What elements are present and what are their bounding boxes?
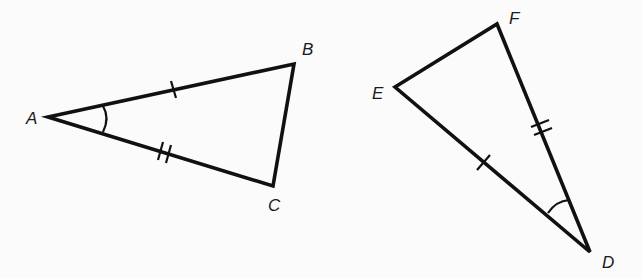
triangle-def: E F D [372, 9, 614, 272]
angle-d-arc [548, 200, 569, 213]
vertex-label-f: F [509, 9, 521, 28]
vertex-label-e: E [372, 84, 384, 103]
triangle-def-outline [395, 24, 590, 252]
vertex-label-a: A [25, 109, 37, 128]
congruent-triangles-diagram: A B C E F D [0, 0, 642, 278]
angle-a-arc [103, 106, 107, 132]
vertex-label-c: C [268, 196, 281, 215]
triangle-abc: A B C [25, 40, 313, 215]
vertex-label-d: D [602, 253, 614, 272]
vertex-label-b: B [302, 40, 313, 59]
